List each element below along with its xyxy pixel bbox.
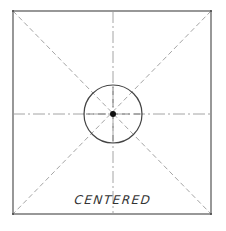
corner-point-bl <box>12 213 14 215</box>
corner-point-tl <box>12 10 14 12</box>
corner-point-br <box>210 213 212 215</box>
center-dot <box>110 111 116 117</box>
corner-point-tr <box>210 10 212 12</box>
centered-label: CENTERED <box>0 193 226 207</box>
